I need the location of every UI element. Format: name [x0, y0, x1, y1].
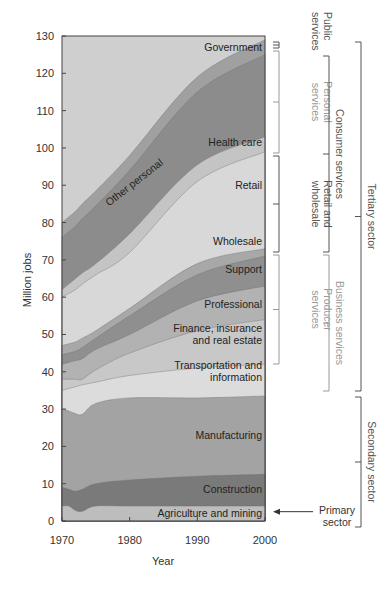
y-tick-label: 10 [42, 478, 54, 490]
band-label: Construction [203, 483, 262, 495]
band-label: Manufacturing [195, 429, 262, 441]
bracket-label: Tertiary sector [366, 184, 378, 250]
y-tick-label: 20 [42, 440, 54, 452]
x-axis-title: Year [152, 555, 175, 567]
x-tick-label: 1980 [117, 534, 141, 546]
band-label: Government [204, 41, 262, 53]
band-label: Agriculture and mining [158, 507, 263, 519]
sector-brackets: PublicservicesPersonalservicesRetail and… [273, 12, 378, 528]
bracket-label: Consumer services [334, 109, 346, 199]
y-tick-label: 130 [36, 30, 54, 42]
y-tick-label: 110 [36, 105, 54, 117]
y-tick-label: 70 [42, 254, 54, 266]
arrow-head-icon [273, 509, 280, 515]
x-tick-label: 1970 [50, 534, 74, 546]
y-tick-label: 30 [42, 403, 54, 415]
band-label: Support [225, 263, 262, 275]
y-tick-label: 0 [48, 515, 54, 527]
y-axis-title: Million jobs [21, 252, 33, 307]
y-tick-label: 120 [36, 67, 54, 79]
bracket-label: Retail andwholesale [310, 180, 334, 228]
band-label: Professional [204, 298, 262, 310]
employment-stacked-area-chart: GovernmentHealth careRetailWholesaleSupp… [0, 0, 392, 592]
y-tick-label: 40 [42, 366, 54, 378]
bracket-label: Business services [334, 281, 346, 365]
x-tick-label: 2000 [253, 534, 277, 546]
y-tick-label: 50 [42, 328, 54, 340]
y-tick-label: 60 [42, 291, 54, 303]
x-tick-label: 1990 [185, 534, 209, 546]
bracket-label: Secondary sector [366, 421, 378, 503]
bracket-label: Publicservices [310, 12, 334, 51]
bracket-label: Personalservices [310, 81, 334, 122]
band-label: Wholesale [213, 235, 262, 247]
y-tick-label: 80 [42, 217, 54, 229]
band-label: Retail [235, 179, 262, 191]
bracket-label: Producerservices [310, 288, 334, 331]
y-tick-label: 90 [42, 179, 54, 191]
y-tick-label: 100 [36, 142, 54, 154]
primary-sector-label: Primarysector [319, 504, 356, 528]
band-label: Health care [208, 136, 262, 148]
